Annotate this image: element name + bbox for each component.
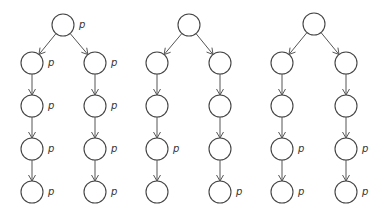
node-circle (335, 52, 357, 74)
edge-arrow (217, 74, 224, 95)
edge-arrow (279, 160, 286, 181)
edge-arrow (289, 33, 307, 55)
node-circle (271, 52, 293, 74)
node-circle (84, 181, 106, 203)
tree-node: p (335, 181, 368, 203)
node-label-p: p (110, 100, 117, 111)
node-label-p: p (47, 100, 54, 111)
node-circle (146, 52, 168, 74)
edge-arrow (343, 74, 350, 95)
node-label-p: p (297, 143, 304, 154)
tree-node (209, 95, 231, 117)
node-circle (303, 13, 325, 35)
edge-arrow (343, 117, 350, 138)
tree-node (335, 52, 357, 74)
edge-arrow (164, 33, 182, 54)
tree-node (146, 181, 168, 203)
tree-node: p (52, 14, 85, 36)
tree-3: pppp (271, 13, 368, 203)
edge-arrow (196, 34, 213, 55)
edge-arrow (279, 117, 286, 138)
tree-diagram-canvas: ppppppppppppppp (0, 0, 389, 212)
tree-node: p (21, 181, 54, 203)
node-label-p: p (361, 143, 368, 154)
node-label-p: p (235, 186, 242, 197)
node-label-p: p (78, 19, 85, 30)
node-label-p: p (110, 57, 117, 68)
node-circle (335, 181, 357, 203)
node-label-p: p (110, 186, 117, 197)
edge-arrow (70, 33, 88, 54)
tree-node: p (146, 138, 179, 160)
node-circle (178, 14, 200, 36)
node-label-p: p (172, 143, 179, 154)
edge-arrow (39, 34, 56, 55)
tree-node: p (335, 138, 368, 160)
node-circle (209, 181, 231, 203)
node-label-p: p (47, 186, 54, 197)
tree-node (335, 95, 357, 117)
tree-node (271, 52, 293, 74)
node-circle (21, 138, 43, 160)
tree-node (146, 95, 168, 117)
edge-arrow (217, 160, 224, 181)
tree-node (178, 14, 200, 36)
tree-node: p (271, 138, 304, 160)
tree-node: p (21, 52, 54, 74)
edge-arrow (92, 117, 99, 138)
edge-arrow (154, 74, 161, 95)
node-circle (271, 181, 293, 203)
node-circle (271, 138, 293, 160)
tree-node: p (84, 138, 117, 160)
node-circle (84, 138, 106, 160)
tree-node: p (84, 95, 117, 117)
node-circle (84, 52, 106, 74)
tree-node: p (21, 95, 54, 117)
tree-node: p (84, 181, 117, 203)
node-circle (335, 138, 357, 160)
tree-node: p (209, 181, 242, 203)
edge-arrow (92, 74, 99, 95)
node-label-p: p (47, 57, 54, 68)
node-circle (52, 14, 74, 36)
tree-node (303, 13, 325, 35)
tree-node: p (271, 181, 304, 203)
edge-arrow (29, 117, 36, 138)
node-circle (335, 95, 357, 117)
tree-1: ppppppppp (21, 14, 117, 203)
edge-arrow (343, 160, 350, 181)
node-circle (21, 52, 43, 74)
tree-node (271, 95, 293, 117)
node-label-p: p (297, 186, 304, 197)
edge-arrow (279, 74, 286, 95)
tree-node: p (84, 52, 117, 74)
node-circle (209, 138, 231, 160)
tree-node (209, 52, 231, 74)
tree-node: p (21, 138, 54, 160)
node-circle (21, 181, 43, 203)
edge-arrow (154, 117, 161, 138)
node-label-p: p (47, 143, 54, 154)
edge-arrow (154, 160, 161, 181)
tree-2: pp (146, 14, 242, 203)
edge-arrow (92, 160, 99, 181)
edge-arrow (217, 117, 224, 138)
node-circle (84, 95, 106, 117)
node-circle (146, 138, 168, 160)
edge-arrow (29, 160, 36, 181)
node-circle (209, 95, 231, 117)
tree-node (209, 138, 231, 160)
node-label-p: p (361, 186, 368, 197)
node-circle (209, 52, 231, 74)
node-circle (271, 95, 293, 117)
node-label-p: p (110, 143, 117, 154)
node-circle (146, 95, 168, 117)
node-circle (21, 95, 43, 117)
node-circle (146, 181, 168, 203)
tree-node (146, 52, 168, 74)
edge-arrow (321, 33, 339, 55)
edge-arrow (29, 74, 36, 95)
